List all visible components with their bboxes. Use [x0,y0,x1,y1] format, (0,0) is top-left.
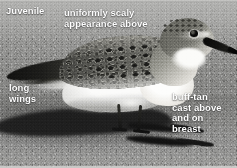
annotation-label-buff-tan-cast: buff-tan cast above and on breast [172,92,222,134]
bird-foot-front [133,129,150,134]
annotation-label-scaly-appearance: uniformly scaly appearance above [64,8,148,29]
field-guide-photo-plate: Juvenile uniformly scaly appearance abov… [0,0,237,168]
bird-foot-rear [112,127,127,131]
annotation-label-juvenile: Juvenile [6,6,44,17]
bird-throat [172,48,206,70]
annotation-label-long-wings: long wings [9,83,36,104]
bird-eye [190,30,198,37]
